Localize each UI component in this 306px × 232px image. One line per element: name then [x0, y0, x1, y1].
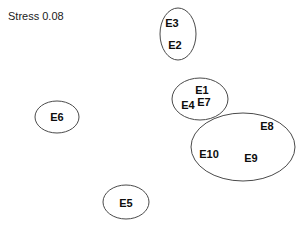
point-label-e2: E2 [168, 40, 181, 51]
stress-annotation: Stress 0.08 [8, 11, 64, 22]
cluster-ellipses-layer [0, 0, 306, 232]
point-label-e8: E8 [260, 121, 273, 132]
point-label-e4: E4 [181, 100, 194, 111]
point-label-e10: E10 [199, 149, 219, 160]
mds-cluster-plot: Stress 0.08 E3 E2 E1 E7 E4 E8 E10 E9 E6 … [0, 0, 306, 232]
point-label-e5: E5 [119, 198, 132, 209]
point-label-e9: E9 [244, 153, 257, 164]
point-label-e6: E6 [50, 112, 63, 123]
point-label-e3: E3 [165, 18, 178, 29]
point-label-e1: E1 [195, 85, 208, 96]
point-label-e7: E7 [197, 97, 210, 108]
